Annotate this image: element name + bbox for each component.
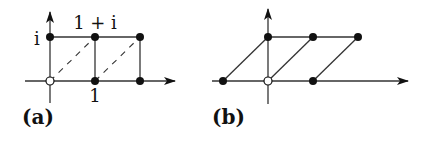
dashed-diagonal-1: [50, 37, 95, 81]
lattice-point: [354, 33, 362, 41]
slant-1: [223, 37, 268, 81]
dashed-diagonal-2: [95, 37, 140, 81]
label-one-plus-i: 1 + i: [73, 12, 117, 33]
lattice-point: [91, 77, 99, 85]
lattice-point: [219, 77, 227, 85]
panel-a: i 1 + i 1 (a): [22, 12, 175, 129]
origin-point-b: [264, 77, 272, 85]
panel-b: (b): [212, 9, 408, 129]
lattice-point: [309, 77, 317, 85]
origin-point-a: [46, 77, 54, 85]
label-one: 1: [89, 85, 100, 106]
lattice-point: [309, 33, 317, 41]
lattice-point: [136, 77, 144, 85]
slant-3: [313, 37, 358, 81]
lattice-diagram: i 1 + i 1 (a) (b): [0, 0, 422, 141]
label-i: i: [34, 28, 40, 49]
lattice-point: [264, 33, 272, 41]
slant-2: [268, 37, 313, 81]
lattice-point: [136, 33, 144, 41]
caption-b: (b): [212, 105, 245, 129]
lattice-point: [46, 33, 54, 41]
lattice-point: [91, 33, 99, 41]
caption-a: (a): [22, 105, 54, 129]
